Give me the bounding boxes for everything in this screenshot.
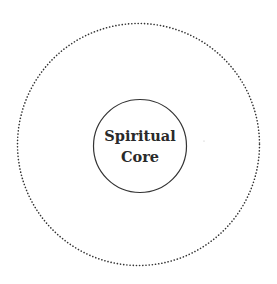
stray-dot bbox=[203, 140, 204, 141]
core-label-line-2: Core bbox=[121, 148, 159, 165]
concentric-circle-diagram: Spiritual Core bbox=[0, 0, 277, 284]
core-label-line-1: Spiritual bbox=[104, 127, 176, 144]
outer-dotted-circle bbox=[18, 24, 260, 266]
inner-core-circle bbox=[94, 100, 187, 193]
